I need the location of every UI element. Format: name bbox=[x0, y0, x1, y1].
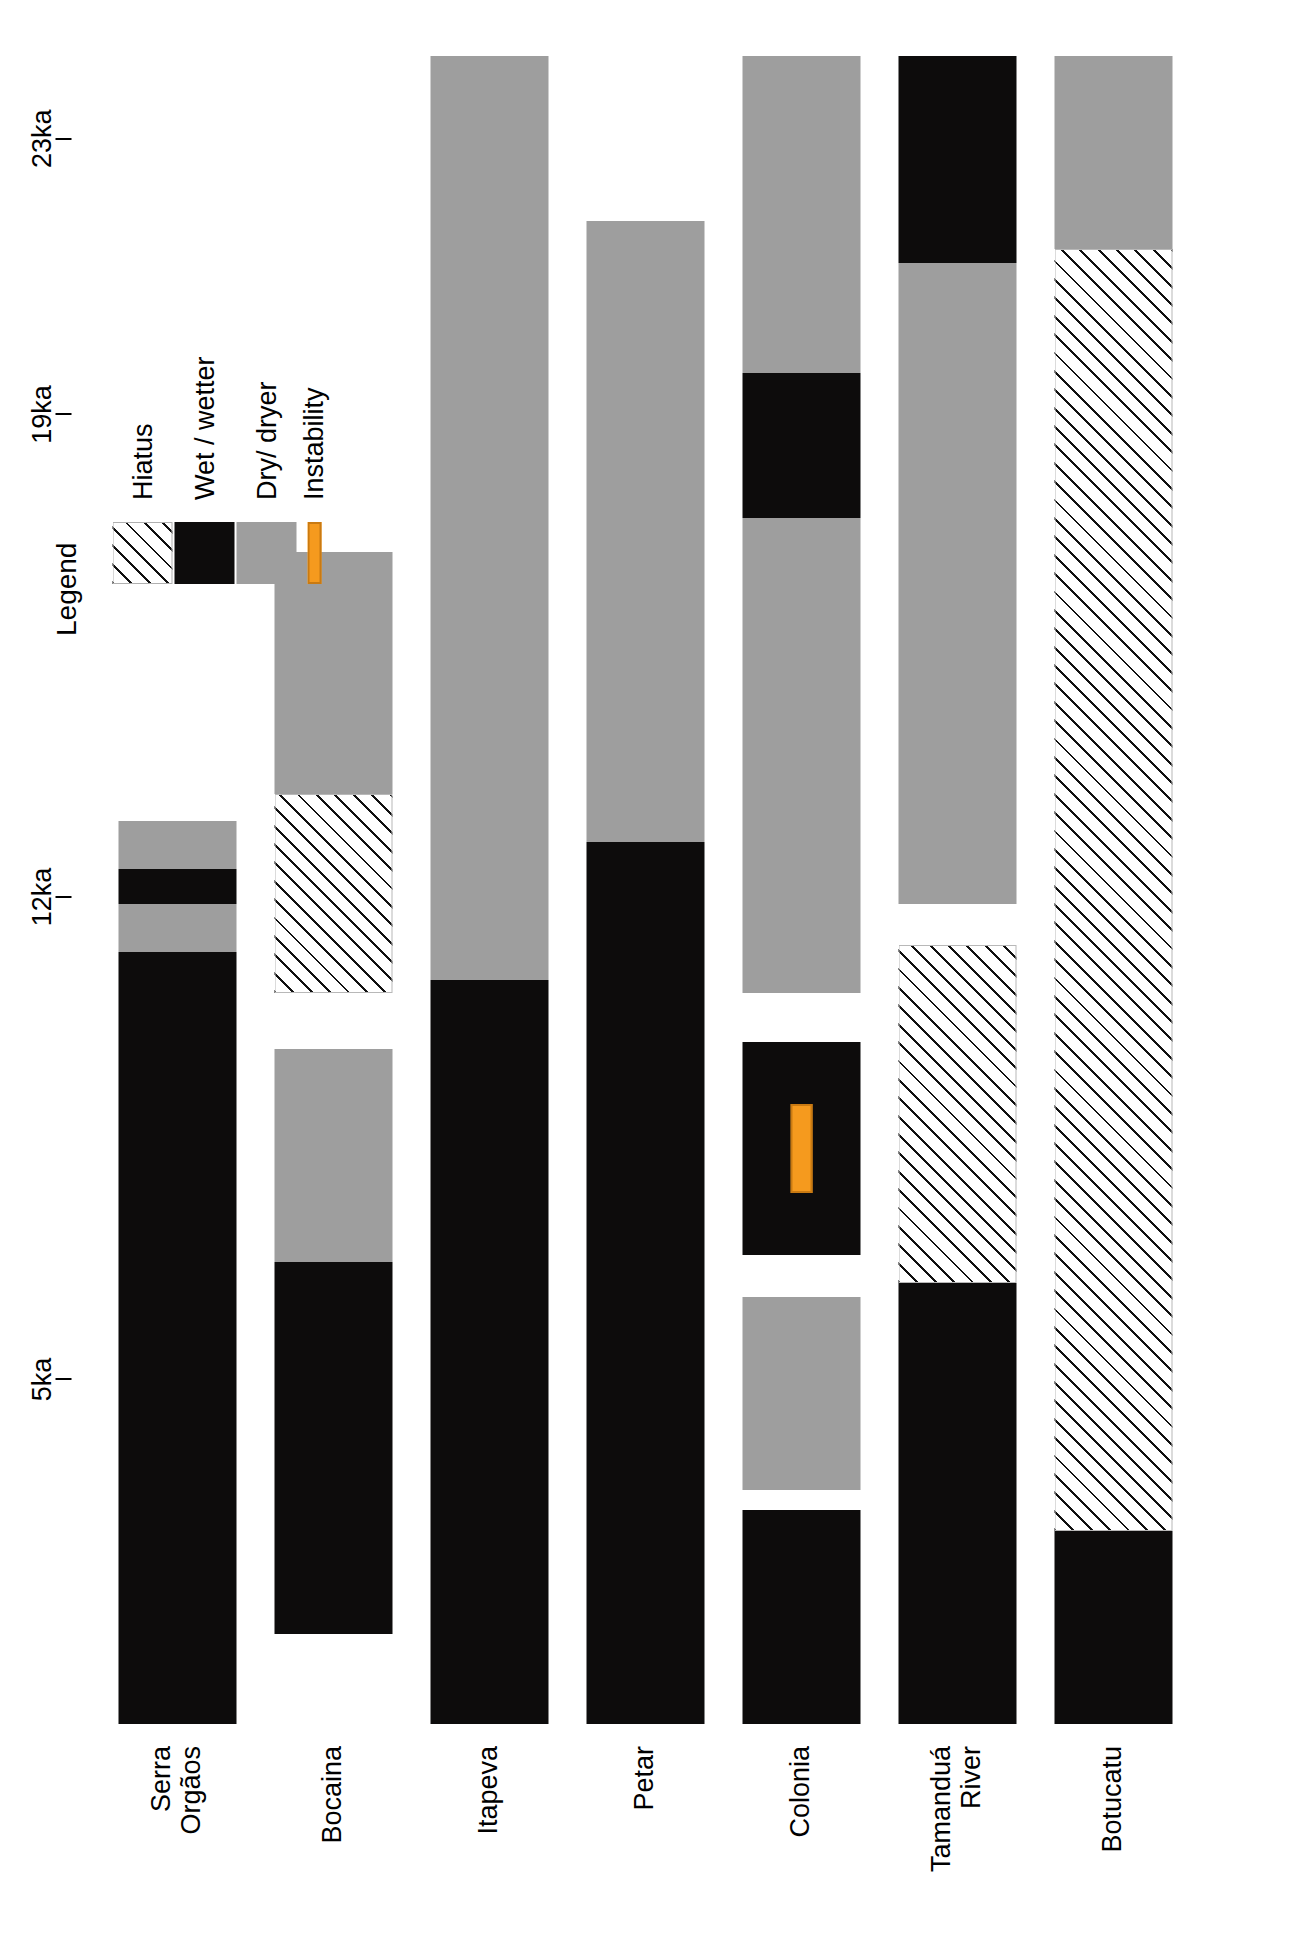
bar-segment-wet bbox=[118, 952, 236, 1724]
bar-segment-hiatus bbox=[274, 794, 392, 994]
bar-segment-dry bbox=[898, 263, 1016, 904]
bar-segment-wet bbox=[742, 1510, 860, 1724]
bar-segment-dry bbox=[118, 821, 236, 869]
bar-segment-wet bbox=[586, 842, 704, 1724]
legend-item-hiatus[interactable]: Hiatus bbox=[112, 423, 172, 584]
bar-segment-dry bbox=[118, 904, 236, 952]
bar-segment-blank bbox=[898, 904, 1016, 945]
bar-segment-hiatus bbox=[1054, 249, 1172, 1531]
legend-swatch-wet bbox=[174, 522, 234, 584]
bar-segment-wet bbox=[742, 373, 860, 518]
bar-segment-wet bbox=[898, 56, 1016, 263]
stratigraphic-bar[interactable] bbox=[742, 0, 860, 1936]
bar-segment-wet bbox=[118, 869, 236, 903]
bar-segment-dry bbox=[742, 1297, 860, 1490]
figure-canvas: 5ka12ka19ka23ka Serra OrgãosBocainaItape… bbox=[0, 0, 1305, 1936]
bar-segment-wet bbox=[274, 1262, 392, 1634]
legend-item-dry[interactable]: Dry/ dryer bbox=[236, 381, 296, 584]
site-row: Petar bbox=[586, 0, 704, 1936]
bar-segment-blank bbox=[742, 993, 860, 1041]
legend-label-dry: Dry/ dryer bbox=[251, 381, 282, 500]
bar-segment-blank bbox=[742, 1490, 860, 1511]
site-row: Tamanduá River bbox=[898, 0, 1016, 1936]
stratigraphic-bar[interactable] bbox=[1054, 0, 1172, 1936]
legend-item-instability[interactable]: Instability bbox=[298, 387, 329, 584]
bar-segment-wet bbox=[898, 1283, 1016, 1724]
chart-stage: 5ka12ka19ka23ka Serra OrgãosBocainaItape… bbox=[0, 0, 1305, 1936]
legend-label-wet: Wet / wetter bbox=[189, 356, 220, 500]
bar-segment-dry bbox=[1054, 56, 1172, 249]
bar-segment-blank bbox=[274, 993, 392, 1048]
stratigraphic-bar[interactable] bbox=[898, 0, 1016, 1936]
bar-segment-wet bbox=[1054, 1531, 1172, 1724]
legend-swatch-dry bbox=[236, 522, 296, 584]
bar-segment-hiatus bbox=[898, 945, 1016, 1283]
site-row: Itapeva bbox=[430, 0, 548, 1936]
bar-segment-wet bbox=[430, 980, 548, 1724]
legend-label-hiatus: Hiatus bbox=[127, 423, 158, 500]
instability-marker bbox=[790, 1104, 812, 1194]
stratigraphic-bar[interactable] bbox=[430, 0, 548, 1936]
bar-segment-dry bbox=[274, 1049, 392, 1263]
bar-segment-dry bbox=[586, 221, 704, 841]
bar-segment-dry bbox=[742, 518, 860, 994]
site-row: Colonia bbox=[742, 0, 860, 1936]
legend-item-wet[interactable]: Wet / wetter bbox=[174, 356, 234, 584]
legend-swatch-instability bbox=[307, 522, 321, 584]
bar-segment-blank bbox=[274, 1634, 392, 1724]
bar-segment-dry bbox=[430, 56, 548, 980]
legend-label-instability: Instability bbox=[298, 387, 329, 500]
site-row: Botucatu bbox=[1054, 0, 1172, 1936]
stratigraphic-bar[interactable] bbox=[586, 0, 704, 1936]
legend-title: Legend bbox=[50, 543, 82, 636]
bar-segment-blank bbox=[742, 1255, 860, 1296]
legend: Legend HiatusWet / wetterDry/ dryerInsta… bbox=[50, 16, 380, 636]
bar-segment-dry bbox=[742, 56, 860, 373]
legend-swatch-hiatus bbox=[112, 522, 172, 584]
